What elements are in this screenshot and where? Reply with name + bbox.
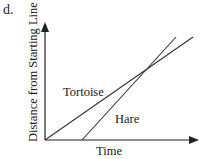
hare-label: Hare [115, 112, 139, 127]
y-axis-label: Distance from Starting Line [26, 2, 41, 142]
x-axis-arrow-icon [189, 136, 199, 144]
x-axis-label: Time [96, 144, 122, 159]
y-axis-arrow-icon [41, 22, 49, 32]
tortoise-label: Tortoise [63, 85, 104, 100]
